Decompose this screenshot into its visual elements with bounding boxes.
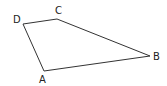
vertex-label-a: A	[39, 74, 46, 85]
vertex-label-b: B	[153, 51, 160, 62]
quadrilateral-abcd	[23, 19, 150, 71]
quadrilateral-diagram: A B C D	[0, 0, 167, 86]
vertex-label-d: D	[13, 14, 21, 25]
vertex-label-c: C	[55, 5, 62, 16]
